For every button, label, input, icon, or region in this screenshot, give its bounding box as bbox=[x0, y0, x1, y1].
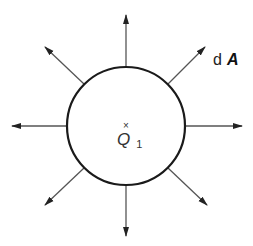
gauss-surface-diagram: × Q 1 d A bbox=[0, 0, 253, 246]
arrow-down-left bbox=[45, 168, 84, 205]
arrow-up-left bbox=[45, 47, 84, 84]
differential-prefix: d bbox=[213, 51, 222, 68]
charge-symbol: Q bbox=[117, 130, 130, 149]
arrow-up-right bbox=[168, 47, 205, 84]
area-vector-symbol: A bbox=[226, 51, 239, 68]
charge-subscript: 1 bbox=[136, 138, 142, 150]
surface-element-label: d A bbox=[213, 51, 238, 68]
arrow-down-right bbox=[168, 168, 207, 205]
charge-label: Q 1 bbox=[117, 130, 142, 150]
